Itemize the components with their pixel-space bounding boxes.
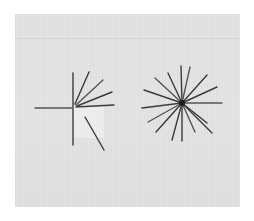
stick (85, 117, 104, 150)
star-hub (179, 100, 185, 106)
right-full-star (142, 66, 222, 141)
stick (76, 105, 114, 107)
left-partial-star (35, 72, 114, 150)
stick (182, 87, 217, 103)
stick-sculpture (0, 0, 254, 221)
stick (155, 78, 182, 103)
stick (142, 103, 182, 108)
stick (182, 103, 212, 133)
stick (181, 66, 182, 103)
stick (148, 103, 182, 122)
